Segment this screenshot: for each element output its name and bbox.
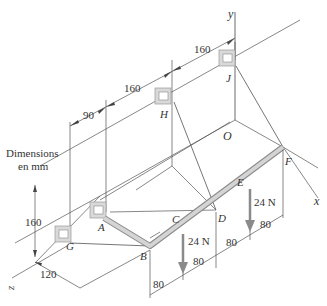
dimensions-note-line1: Dimensions (6, 147, 59, 159)
dim-160-right-label: 160 (194, 43, 211, 55)
dimensions-note-line2: en mm (18, 160, 49, 172)
dim-bottom-3-label: 80 (226, 236, 238, 248)
dim-depth-label: 120 (40, 268, 57, 280)
cable-h-d (174, 102, 216, 210)
load-arrow-c (178, 234, 188, 274)
cable-g-b (70, 243, 150, 246)
dim-90-label: 90 (83, 109, 95, 121)
dim-bottom-1-label: 80 (153, 278, 165, 290)
diagram-canvas: y x z O Dimensions en mm A B C D E F G H… (0, 0, 327, 306)
load-c-label: 24 N (188, 235, 210, 247)
dim-bottom-4-label: 80 (260, 218, 272, 230)
z-axis-label: z (4, 285, 16, 291)
point-b-label: B (140, 250, 147, 262)
y-axis-label: y (227, 7, 234, 21)
x-axis-label: x (313, 194, 320, 208)
point-e-label: E (236, 176, 244, 188)
bracket-a (90, 202, 106, 218)
load-e-label: 24 N (254, 196, 276, 208)
dim-160-mid-label: 160 (124, 82, 141, 94)
point-j-label: J (226, 72, 232, 84)
point-d-label: D (217, 212, 226, 224)
point-c-label: C (172, 213, 180, 225)
dim-height-label: 160 (25, 216, 42, 228)
bracket-j (219, 50, 235, 66)
bracket-h (155, 88, 171, 104)
dim-bottom-2-label: 80 (193, 255, 205, 267)
point-a-label: A (97, 221, 105, 233)
point-h-label: H (159, 108, 169, 120)
origin-label: O (223, 129, 232, 143)
point-f-label: F (284, 155, 292, 167)
x-axis-segment-o-f (235, 120, 283, 147)
cable-j-f (236, 66, 283, 147)
point-g-label: G (66, 240, 74, 252)
